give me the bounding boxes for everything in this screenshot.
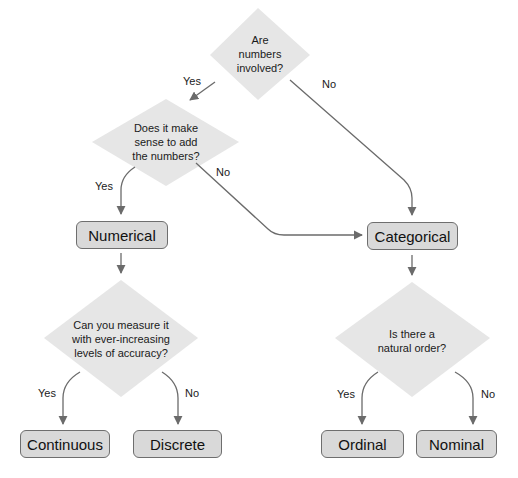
- decision-line: numbers: [237, 47, 283, 61]
- outcome-categorical: Categorical: [367, 222, 458, 250]
- decision-line: the numbers?: [132, 149, 199, 163]
- decision-line: levels of accuracy?: [72, 346, 170, 360]
- edge-label-d3-yes: Yes: [38, 388, 56, 399]
- decision-text-measure-accuracy: Can you measure it with ever-increasing …: [72, 318, 170, 360]
- decision-line: Can you measure it: [72, 318, 170, 332]
- decision-line: with ever-increasing: [72, 332, 170, 346]
- decision-line: Is there a: [378, 327, 447, 341]
- flowchart-canvas: Are numbers involved? Does it make sense…: [0, 0, 518, 478]
- edge-d1-no: [290, 80, 412, 215]
- decision-line: sense to add: [132, 135, 199, 149]
- edge-label-d4-yes: Yes: [337, 389, 355, 400]
- edge-d2-yes: [121, 167, 135, 214]
- edge-d4-yes: [362, 372, 378, 424]
- decision-line: involved?: [237, 61, 283, 75]
- outcome-discrete: Discrete: [133, 430, 222, 458]
- edge-label-d4-no: No: [481, 389, 495, 400]
- edge-label-d2-no: No: [216, 167, 230, 178]
- edge-label-d1-yes: Yes: [183, 76, 201, 87]
- decision-line: natural order?: [378, 341, 447, 355]
- edge-d4-no: [455, 372, 473, 424]
- outcome-numerical: Numerical: [76, 221, 168, 249]
- edge-label-d3-no: No: [185, 388, 199, 399]
- outcome-ordinal: Ordinal: [321, 430, 404, 458]
- edge-d3-no: [162, 372, 178, 424]
- outcome-continuous: Continuous: [20, 430, 110, 458]
- decision-line: Does it make: [132, 121, 199, 135]
- decision-line: Are: [237, 33, 283, 47]
- decision-text-add-numbers: Does it make sense to add the numbers?: [132, 121, 199, 163]
- edge-label-d2-yes: Yes: [95, 181, 113, 192]
- edge-label-d1-no: No: [322, 79, 336, 90]
- outcome-nominal: Nominal: [416, 430, 497, 458]
- decision-text-numbers-involved: Are numbers involved?: [237, 33, 283, 75]
- edge-d3-yes: [63, 372, 80, 424]
- decision-text-natural-order: Is there a natural order?: [378, 327, 447, 355]
